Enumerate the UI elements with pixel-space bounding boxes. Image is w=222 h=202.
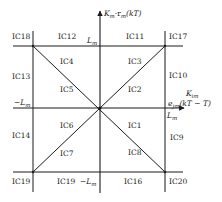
region-ic3: IC3 bbox=[128, 57, 142, 66]
corner-dot-tr bbox=[164, 45, 166, 47]
region-ic19-bottom: IC19 bbox=[57, 177, 75, 186]
tick-left-negLm: −Lm bbox=[14, 98, 30, 108]
region-ic1: IC1 bbox=[128, 121, 141, 130]
corner-dot-tl bbox=[32, 45, 34, 47]
region-ic16: IC16 bbox=[124, 177, 142, 186]
region-ic8: IC8 bbox=[128, 148, 142, 157]
region-ic2: IC2 bbox=[128, 85, 142, 94]
origin-dot bbox=[98, 106, 101, 109]
horizontal-axis-label-line1: Kim bbox=[185, 89, 199, 99]
tick-right-Lm: Lm bbox=[166, 111, 177, 121]
region-ic20: IC20 bbox=[169, 177, 187, 186]
region-ic4: IC4 bbox=[60, 57, 74, 66]
tick-top-Lm: Lm bbox=[86, 36, 97, 46]
region-ic10: IC10 bbox=[169, 71, 187, 80]
region-ic6: IC6 bbox=[60, 121, 74, 130]
tick-bottom-negLm: −Lm bbox=[80, 177, 96, 187]
region-ic18: IC18 bbox=[12, 32, 30, 41]
region-ic7: IC7 bbox=[60, 149, 74, 158]
corner-dot-br bbox=[164, 171, 166, 173]
region-ic5: IC5 bbox=[60, 85, 74, 94]
horizontal-axis-label-line2: ejm(kT − T) bbox=[168, 99, 211, 110]
vertical-axis-label: Km·rm(kT) bbox=[103, 9, 142, 19]
region-ic19-left: IC19 bbox=[12, 177, 30, 186]
ic-region-diagram: Km·rm(kT) Kim ejm(kT − T) Lm Lm −Lm −Lm … bbox=[0, 0, 222, 202]
corner-dot-bl bbox=[32, 171, 34, 173]
region-ic14: IC14 bbox=[12, 131, 30, 140]
region-ic17: IC17 bbox=[169, 32, 187, 41]
region-ic13: IC13 bbox=[12, 72, 30, 81]
region-ic12: IC12 bbox=[58, 32, 76, 41]
region-ic11: IC11 bbox=[126, 32, 144, 41]
region-ic9: IC9 bbox=[170, 133, 184, 142]
